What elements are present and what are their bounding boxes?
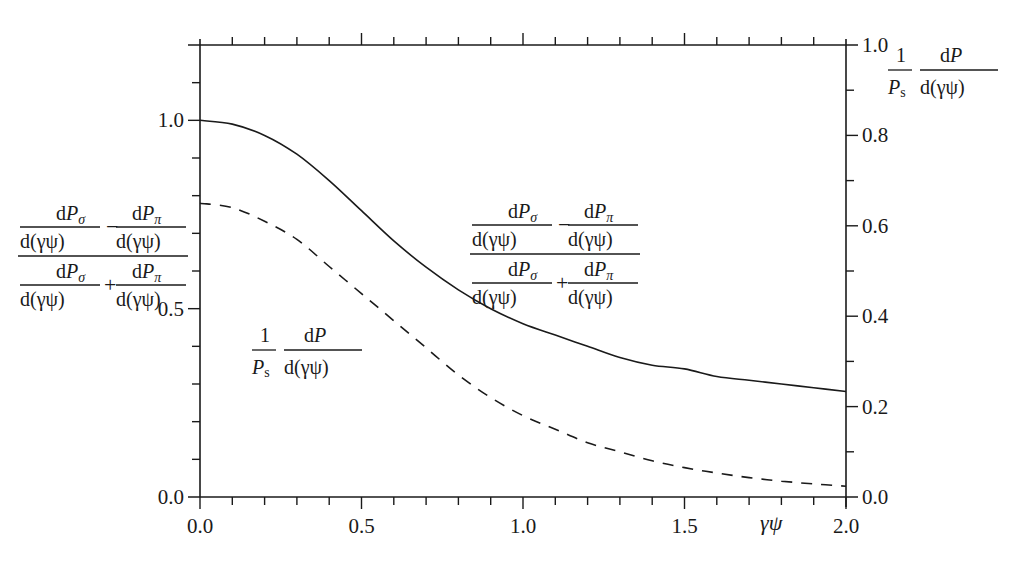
svg-text:dPπ: dPπ [132,260,162,285]
y-left-tick-label: 0.5 [158,297,184,321]
chart: 0.00.51.01.52.00.00.51.00.00.20.40.60.81… [0,0,1011,566]
svg-text:Ps: Ps [251,356,270,380]
y-left-tick-label: 0.0 [158,485,184,509]
x-tick-label: 2.0 [833,514,859,538]
svg-text:d(γψ): d(γψ) [568,286,613,309]
svg-text:1: 1 [896,44,906,66]
svg-text:d(γψ): d(γψ) [20,288,65,311]
left-y-axis-label: dPσ d(γψ) − dPπ d(γψ) dPσ d(γψ) + dPπ d(… [18,202,188,311]
svg-text:d(γψ): d(γψ) [920,76,965,99]
svg-text:dP: dP [304,324,326,346]
x-tick-label: 0.0 [187,514,213,538]
right-y-axis-label: 1 Ps dP d(γψ) [887,44,998,100]
x-tick-label: 1.5 [671,514,697,538]
svg-text:dPσ: dPσ [508,200,538,225]
svg-text:dPσ: dPσ [508,258,538,283]
svg-text:d(γψ): d(γψ) [472,228,517,251]
y-left-tick-label: 1.0 [158,108,184,132]
x-tick-label: 0.5 [348,514,374,538]
svg-text:d(γψ): d(γψ) [472,286,517,309]
svg-text:dPπ: dPπ [132,202,162,227]
x-axis-label: γψ [760,510,783,535]
svg-text:dPσ: dPσ [56,260,86,285]
svg-text:1: 1 [260,324,270,346]
svg-text:d(γψ): d(γψ) [284,356,329,379]
normalized-power-curve [200,203,846,486]
svg-text:dP: dP [940,44,962,66]
svg-text:dPπ: dPπ [584,258,614,283]
y-right-tick-label: 0.8 [862,123,888,147]
polarization-ratio-curve [200,120,846,391]
x-tick-label: 1.0 [510,514,536,538]
svg-text:d(γψ): d(γψ) [116,230,161,253]
svg-text:dPπ: dPπ [584,200,614,225]
svg-text:+: + [104,272,116,297]
y-right-tick-label: 0.0 [862,485,888,509]
svg-text:dPσ: dPσ [56,202,86,227]
dashed-curve-annotation: 1 Ps dP d(γψ) [251,324,362,380]
axis-tick-labels: 0.00.51.01.52.00.00.51.00.00.20.40.60.81… [158,33,889,538]
svg-text:+: + [556,270,568,295]
y-right-tick-label: 0.6 [862,214,888,238]
y-right-tick-label: 0.4 [862,304,889,328]
y-right-tick-label: 0.2 [862,395,888,419]
svg-text:d(γψ): d(γψ) [116,288,161,311]
svg-text:d(γψ): d(γψ) [568,228,613,251]
solid-curve-annotation: dPσ d(γψ) − dPπ d(γψ) dPσ d(γψ) + dPπ d(… [470,200,640,309]
numerator-left: dPσ d(γψ) − dPπ d(γψ) [20,202,186,253]
svg-text:d(γψ): d(γψ) [20,230,65,253]
svg-text:Ps: Ps [887,76,906,100]
y-right-tick-label: 1.0 [862,33,888,57]
